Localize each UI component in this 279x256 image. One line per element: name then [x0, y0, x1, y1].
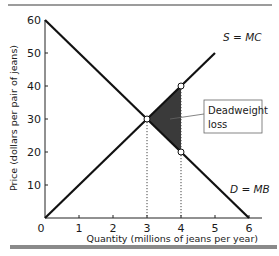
deadweight-loss-area: [147, 86, 181, 152]
marginal-cost-point: [178, 83, 184, 89]
y-axis-title: Price (dollars per pair of jeans): [8, 45, 19, 191]
supply-label: S = MC: [223, 31, 262, 43]
demand-label: D = MB: [230, 183, 270, 195]
y-tick-labels: 60 50 40 30 20 10: [27, 14, 41, 192]
x-axis-title: Quantity (millions of jeans per year): [86, 233, 258, 244]
supply-curve: [45, 53, 215, 218]
marginal-benefit-point: [178, 149, 184, 155]
y-tick-30: 30: [27, 113, 41, 126]
y-tick-10: 10: [27, 179, 41, 192]
bottom-rule: [10, 245, 277, 249]
x-tick-1: 1: [76, 222, 83, 235]
y-tick-20: 20: [27, 146, 41, 159]
y-tick-60: 60: [27, 14, 41, 27]
equilibrium-point: [144, 116, 150, 122]
y-tick-50: 50: [27, 47, 41, 60]
x-tick-0: 0: [38, 222, 45, 235]
callout-line-1: Deadweight: [208, 105, 268, 116]
callout-line-2: loss: [208, 119, 227, 130]
deadweight-loss-chart: 60 50 40 30 20 10 0 1 2 3 4 5 6 Quantity…: [0, 0, 279, 256]
y-tick-40: 40: [27, 80, 41, 93]
